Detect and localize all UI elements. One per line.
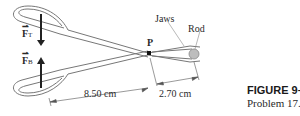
force-top-label: ⇀ FT	[22, 28, 32, 39]
rod-label: Rod	[188, 23, 205, 34]
pliers-top-handle	[13, 6, 148, 57]
pivot-label: P	[147, 37, 153, 48]
force-bottom-arrow	[37, 57, 45, 88]
dimension-jaws-label: 2.70 cm	[159, 88, 191, 99]
force-top-arrow	[37, 14, 45, 46]
force-bottom-label: ⇀ FB	[22, 55, 33, 66]
jaws-label: Jaws	[155, 13, 174, 24]
dimension-handle-label: 8.50 cm	[84, 88, 116, 99]
rod-icon	[189, 49, 199, 59]
figure-title: FIGURE 9–51	[247, 84, 300, 96]
figure-caption: Problem 17.	[247, 97, 300, 109]
pivot-point	[147, 51, 151, 55]
pliers-bottom-handle	[13, 51, 148, 96]
jaws-leader	[168, 22, 184, 46]
